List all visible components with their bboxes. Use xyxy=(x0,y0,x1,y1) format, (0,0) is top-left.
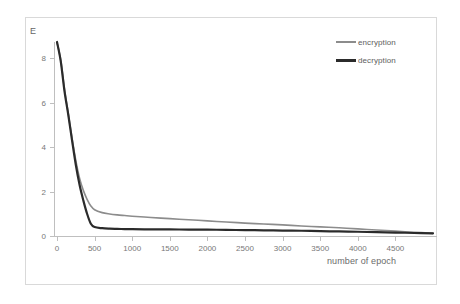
chart-figure: E number of epoch 02468 0500100015002000… xyxy=(0,0,460,304)
x-tick-label: 2000 xyxy=(198,244,216,253)
series-line-encryption xyxy=(57,42,433,233)
chart-legend: encryption decryption xyxy=(336,33,396,69)
y-tick-label: 8 xyxy=(34,54,46,63)
legend-line-icon-encryption xyxy=(336,41,356,43)
y-tick-label: 0 xyxy=(34,232,46,241)
x-tick-label: 3500 xyxy=(311,244,329,253)
x-tick-label: 4000 xyxy=(349,244,367,253)
y-tick-label: 6 xyxy=(34,98,46,107)
x-tick-label: 0 xyxy=(55,244,59,253)
legend-label-decryption: decryption xyxy=(358,56,396,65)
legend-item-decryption: decryption xyxy=(336,51,396,69)
legend-label-encryption: encryption xyxy=(358,38,396,47)
x-tick-label: 1000 xyxy=(123,244,141,253)
legend-line-icon-decryption xyxy=(336,59,356,62)
x-tick-label: 1500 xyxy=(161,244,179,253)
series-line-decryption xyxy=(57,42,433,233)
x-tick-label: 500 xyxy=(88,244,101,253)
x-tick-label: 2500 xyxy=(236,244,254,253)
y-tick-label: 2 xyxy=(34,187,46,196)
x-tick-label: 4500 xyxy=(386,244,404,253)
x-tick-label: 3000 xyxy=(274,244,292,253)
legend-item-encryption: encryption xyxy=(336,33,396,51)
y-tick-label: 4 xyxy=(34,143,46,152)
